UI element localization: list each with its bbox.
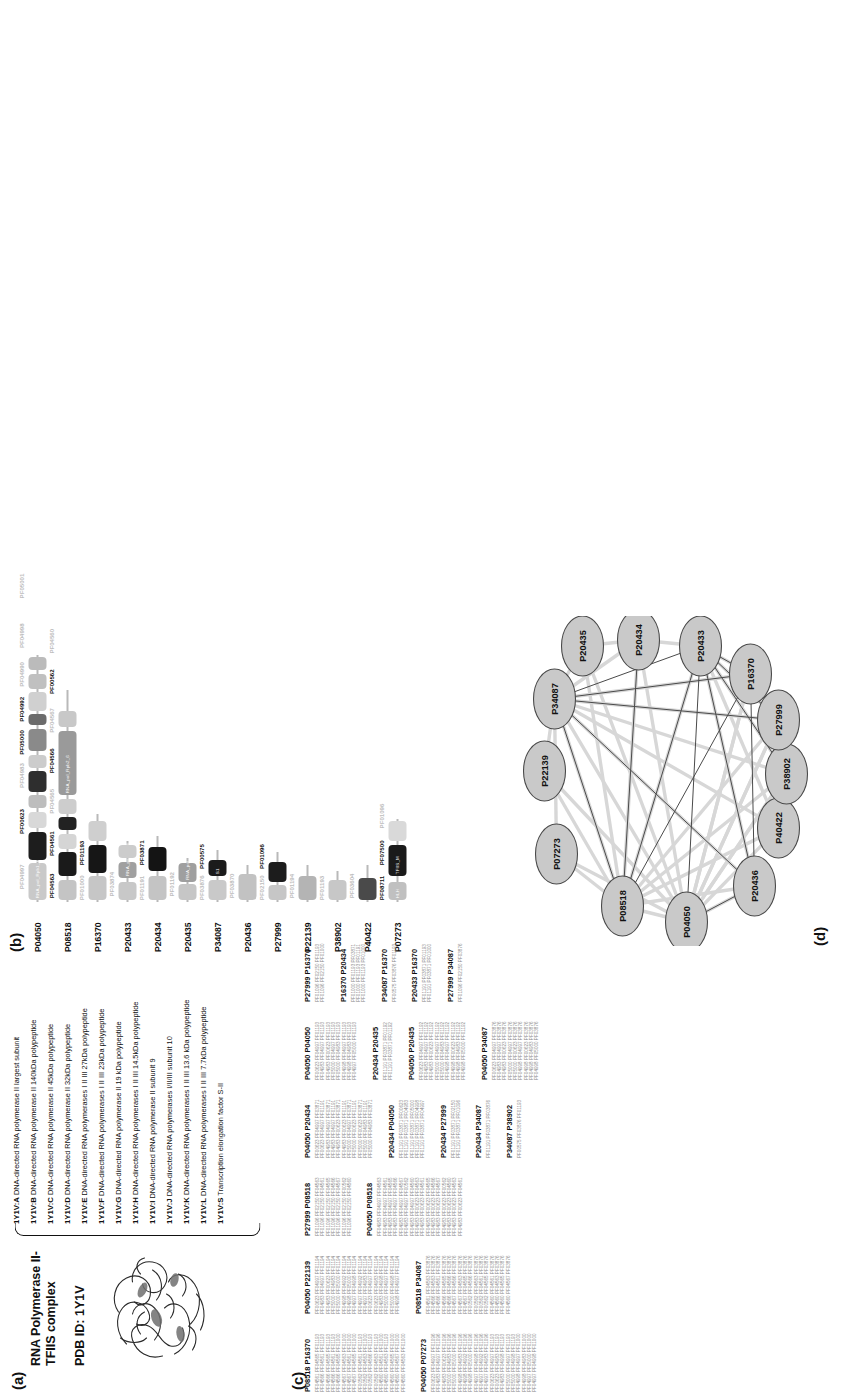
- pair-block-header: P08518 P34087: [413, 1256, 422, 1315]
- chain-id: 1Y1V:A: [11, 1197, 20, 1224]
- pfam-id-label: PF04998: [17, 623, 24, 648]
- network-edge-light: [582, 646, 622, 906]
- panel-a-brace: [14, 1223, 260, 1236]
- chain-row: 1Y1V:G DNA-directed RNA polymerase II 19…: [114, 964, 122, 1224]
- chain-desc: DNA-directed RNA polymerases I II III 7.…: [198, 1007, 207, 1196]
- pair-block-line: PF05000 PF04997 PF01192: [434, 1022, 439, 1080]
- pair-block-line: PF00562 PF04563 PF01000: [362, 1334, 367, 1393]
- protein-accession-label: P04050: [32, 906, 42, 952]
- chain-desc: DNA-directed RNA polymerases I II III 23…: [96, 1009, 105, 1196]
- pair-block-line: PF04561 PF04565 PF01193: [314, 1334, 319, 1393]
- pfam-id-label: PF01000: [77, 875, 84, 900]
- pair-block-line: PF04983 PF04997 PF01191: [330, 1100, 335, 1159]
- domain-pair-block: P27999 P08518PF01096 PF02150 PF04563PF01…: [302, 1178, 351, 1237]
- pair-block-line: PF05000 PF04983 PF01194: [330, 1256, 335, 1314]
- pfam-domain-box: [58, 817, 76, 830]
- chain-desc: DNA-directed RNA polymerase II 19 kDa po…: [113, 1021, 122, 1194]
- pair-block-line: PF00623 PF04997 PF03871: [314, 1100, 319, 1159]
- protein-accession-label: P20433: [122, 906, 132, 952]
- pair-block-line: PF04998 PF04997 PF01194: [394, 1256, 399, 1314]
- pair-block-line: PF01191 PF03871 PF04997: [419, 1100, 424, 1158]
- pair-block-line: PF01096 PF02150 PF01000: [319, 944, 324, 1003]
- network-node-label: P08518: [617, 890, 627, 922]
- network-node[interactable]: P40422: [757, 798, 799, 858]
- pair-block-line: PF05000 PF00623 PF03876: [512, 1022, 517, 1081]
- pair-block-line: PF04983 PF04997 PF04563: [376, 1178, 381, 1237]
- pair-block-line: PF01096 PF02150 PF03876: [457, 944, 462, 1003]
- pfam-domain-box: [28, 755, 46, 768]
- network-node[interactable]: P27999: [757, 690, 799, 750]
- pair-block-line: PF05000 PF00623 PF03871: [357, 1100, 362, 1159]
- domain-inner-label: S1: [214, 868, 219, 874]
- pair-block-header: P20434 P20435: [370, 1022, 379, 1080]
- pair-block-line: PF00562 PF04561 PF03876: [478, 1256, 483, 1315]
- pair-block-line: PF04997 PF04998 PF01000: [531, 1334, 536, 1393]
- domain-pair-block: P04050 P20435PF00623 PF04997 PF01192PF04…: [406, 1022, 466, 1080]
- network-node-label: P40422: [773, 812, 783, 844]
- pair-block-line: PF04560 PF04567 PF03876: [505, 1256, 510, 1315]
- node-group: P07273P22139P34087P20435P08518P20434P040…: [523, 616, 807, 946]
- pair-block-line: PF00562 PF04566 PF01193: [367, 1334, 372, 1393]
- pair-block-header: P04050 P07273: [418, 1334, 427, 1393]
- pair-block-line: PF00562 PF04563 PF01193: [373, 1334, 378, 1393]
- pair-block-line: PF04983 PF04997 PF01096: [435, 1334, 440, 1393]
- pair-block-line: PF05000 PF04983 PF01192: [439, 1022, 444, 1080]
- pair-block-line: PF04997 PF04998 PF01096: [473, 1334, 478, 1393]
- network-node[interactable]: P22139: [523, 741, 565, 801]
- network-node-label: P16370: [745, 658, 755, 690]
- pfam-domain-box: [28, 795, 46, 808]
- pair-block-line: PF04983 PF00623 PF01194: [325, 1256, 330, 1314]
- pair-block-line: PF01191 PF03871 PF00623: [398, 1100, 403, 1158]
- pair-block-line: PF04567 PF04563 PF03876: [457, 1256, 462, 1315]
- pair-block-line: PF04998 PF04997 PF01193: [341, 1022, 346, 1080]
- pfam-domain-box: [148, 847, 166, 871]
- pair-block-header: P27999 P08518: [302, 1178, 311, 1237]
- network-node[interactable]: P38902: [765, 744, 807, 804]
- pfam-id-label: PF05000: [17, 730, 24, 755]
- network-node-label: P20433: [695, 630, 705, 662]
- network-node[interactable]: P16370: [729, 644, 771, 704]
- network-node[interactable]: P08518: [601, 876, 643, 936]
- chain-row: 1Y1V:K DNA-directed RNA polymerases I II…: [182, 964, 190, 1224]
- pair-block-line: PF00575 PF03876 PF01193: [516, 1100, 521, 1158]
- pfam-domain-box: [88, 876, 106, 900]
- pfam-id-label: PF04560: [47, 629, 54, 654]
- pair-block-header: P04050 P08518: [364, 1178, 373, 1237]
- pair-block-line: PF04566 PF04565 PF03876: [441, 1256, 446, 1315]
- pair-block-line: PF05000 PF04997 PF03871: [346, 1100, 351, 1159]
- chain-desc: DNA-directed RNA polymerases I II III 27…: [79, 1008, 88, 1195]
- domain-track: PF03870: [234, 865, 260, 902]
- network-node[interactable]: P20433: [679, 616, 721, 676]
- network-node[interactable]: P20436: [733, 856, 775, 916]
- pfam-id-label: PF00575: [197, 844, 204, 869]
- pfam-id-label: PF05001: [17, 574, 24, 599]
- network-node[interactable]: P20434: [617, 616, 659, 670]
- chain-id: 1Y1V:F: [96, 1198, 105, 1224]
- domain-pair-block: P20434 P34087PF01191 PF03871 PF03876: [473, 1100, 490, 1158]
- pair-block-line: PF04983 PF00623 PF01193: [325, 1022, 330, 1080]
- pair-block-line: PF05000 PF00623 PF01191: [351, 1100, 356, 1159]
- network-node[interactable]: P07273: [535, 824, 577, 884]
- domain-inner-label: RNA_pol_Rpb1_1: [34, 860, 39, 898]
- pair-block-line: PF04560 PF04567 PF01000: [394, 1334, 399, 1393]
- pair-block-line: PF04998 PF04983 PF03876: [528, 1022, 533, 1081]
- network-node[interactable]: P34087: [533, 669, 575, 729]
- pfam-id-label: PF03874: [107, 872, 114, 897]
- pair-block-line: PF04998 PF04983 PF01192: [455, 1022, 460, 1080]
- pair-block-header: P04050 P20434: [302, 1100, 311, 1159]
- pair-block-line: PF01191 PF03871 PF04983: [403, 1100, 408, 1158]
- network-node[interactable]: P20435: [561, 616, 603, 676]
- pfam-id-label: PF04563: [47, 874, 54, 899]
- chain-row: 1Y1V:E DNA-directed RNA polymerases I II…: [80, 964, 88, 1224]
- pfam-id-label: PF04992: [17, 697, 24, 722]
- pair-block-line: PF05000 PF04998 PF01193: [510, 1334, 515, 1393]
- domain-track: PF02150PF01096: [264, 852, 290, 902]
- pair-block-line: PF04560 PF04561 PF03876: [489, 1256, 494, 1315]
- pair-block-line: PF04561 PF04563 PF03876: [425, 1256, 430, 1315]
- pair-block-line: PF04983 PF00623 PF01096: [441, 1334, 446, 1393]
- panel-d: (d) P07273P22139P34087P20435P08518P20434…: [510, 616, 840, 946]
- pair-block-line: PF04997 PF04983 PF01194: [362, 1256, 367, 1314]
- pair-block-line: PF01000 PF01193 PF01191: [355, 944, 360, 1002]
- pair-block-line: PF01096 PF02150 PF04566: [330, 1178, 335, 1237]
- pair-block-line: PF04560 PF04561 PF01000: [378, 1334, 383, 1393]
